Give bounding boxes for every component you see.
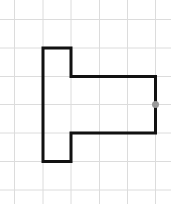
point-marker[interactable] — [152, 101, 159, 108]
grid-lines — [0, 0, 171, 204]
grid-diagram — [0, 0, 171, 204]
